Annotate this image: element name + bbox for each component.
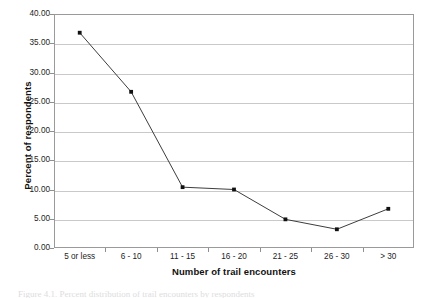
y-tick-label: 10.00 [6,185,50,194]
data-point-marker [335,227,339,231]
data-series-layer [54,14,414,248]
y-tick-label: 20.00 [6,126,50,135]
x-tick-mark [105,248,106,252]
x-tick-label: 5 or less [64,252,95,261]
figure-caption: Figure 4.1. Percent distribution of trai… [18,289,418,298]
x-axis-title: Number of trail encounters [54,266,414,277]
x-tick-mark [208,248,209,252]
data-point-marker [232,188,236,192]
data-point-marker [386,207,390,211]
x-tick-label: 21 - 25 [273,252,299,261]
x-tick-mark [260,248,261,252]
chart-figure: Percent of respondents 0.005.0010.0015.0… [0,0,425,298]
y-tick-label: 40.00 [6,9,50,18]
data-point-marker [181,185,185,189]
x-tick-label: > 30 [380,252,396,261]
series-line [80,33,389,230]
data-point-marker [284,217,288,221]
y-tick-label: 30.00 [6,68,50,77]
x-tick-label: 11 - 15 [170,252,195,261]
x-tick-mark [311,248,312,252]
y-tick-label: 15.00 [6,155,50,164]
y-tick-label: 0.00 [6,243,50,252]
data-point-marker [78,31,82,35]
y-tick-label: 5.00 [6,214,50,223]
x-tick-label: 16 - 20 [221,252,247,261]
data-point-marker [129,90,133,94]
x-tick-mark [363,248,364,252]
x-tick-label: 6 - 10 [121,252,142,261]
y-tick-label: 35.00 [6,38,50,47]
y-tick-mark [49,248,54,249]
x-tick-mark [157,248,158,252]
x-tick-label: 26 - 30 [324,252,350,261]
y-tick-label: 25.00 [6,97,50,106]
